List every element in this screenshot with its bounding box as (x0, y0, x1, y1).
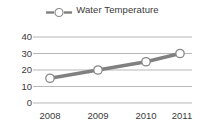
y-axis-tick-20: 20 (2, 65, 32, 75)
line-chart: Water Temperature 40 30 20 10 0 2008 200… (0, 0, 205, 133)
series-line-water-temperature (50, 54, 180, 79)
x-axis-tick-2009: 2009 (76, 110, 120, 121)
y-axis-tick-40: 40 (2, 32, 32, 42)
x-axis-tick-2008: 2008 (28, 110, 72, 121)
y-axis-tick-30: 30 (2, 49, 32, 59)
x-axis-tick-2011: 2011 (160, 110, 204, 121)
data-point-2008 (46, 74, 54, 82)
data-point-2010 (142, 58, 150, 66)
gridlines (33, 37, 192, 103)
data-point-2009 (94, 66, 102, 74)
y-axis-tick-10: 10 (2, 82, 32, 92)
y-axis-tick-0: 0 (2, 98, 32, 108)
data-point-2011 (176, 49, 184, 57)
